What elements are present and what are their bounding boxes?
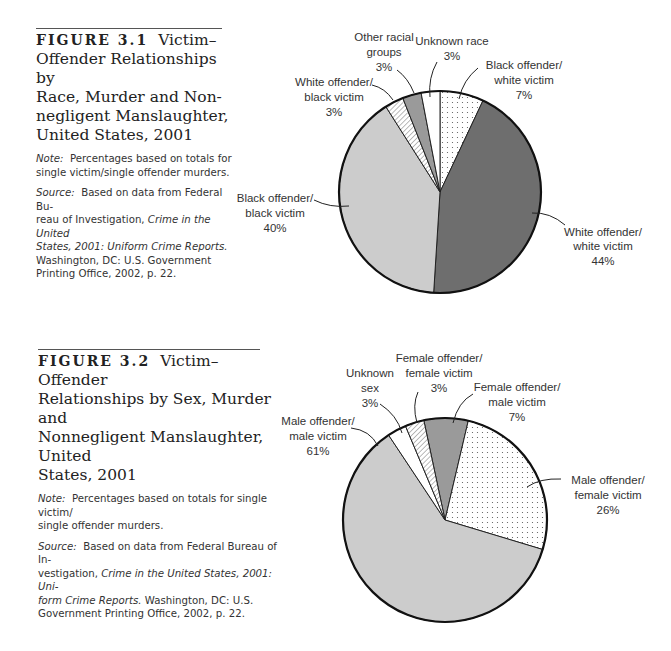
- label-female-offender-male-victim: Female offender/male victim7%: [474, 381, 562, 423]
- pie-charts-canvas: Black offender/white victim7% White offe…: [0, 0, 671, 651]
- label-unknown-sex: Unknownsex3%: [346, 367, 394, 409]
- label-male-offender-male-victim: Male offender/male victim61%: [281, 415, 355, 457]
- label-female-offender-female-victim: Female offender/female victim3%: [396, 352, 484, 394]
- label-other-racial-groups: Other racialgroups3%: [354, 31, 413, 73]
- label-white-offender-white-victim: White offender/white victim44%: [564, 226, 643, 267]
- pie-chart-race: [339, 91, 541, 293]
- label-male-offender-female-victim: Male offender/female victim26%: [571, 474, 645, 516]
- label-black-offender-black-victim: Black offender/black victim40%: [237, 192, 314, 234]
- pie-chart-sex: [343, 418, 547, 622]
- label-white-offender-black-victim: White offender/black victim3%: [295, 76, 374, 118]
- label-black-offender-white-victim: Black offender/white victim7%: [486, 59, 563, 101]
- label-unknown-race: Unknown race3%: [415, 35, 489, 62]
